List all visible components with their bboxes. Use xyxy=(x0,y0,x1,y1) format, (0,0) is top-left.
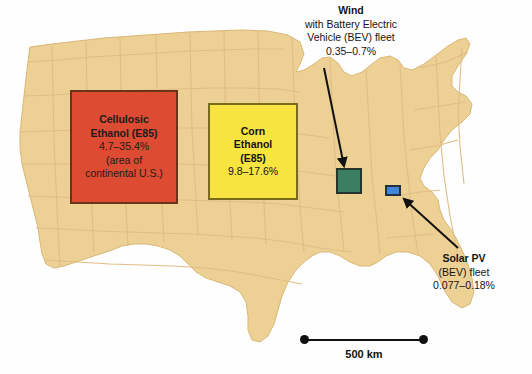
wind-callout: Wind with Battery Electric Vehicle (BEV)… xyxy=(258,4,444,59)
scale-bar-line xyxy=(300,335,428,345)
cellulosic-title-line-2: Ethanol (E85) xyxy=(90,127,157,140)
scale-bar-dot-right xyxy=(419,335,428,344)
cellulosic-value: 4.7–35.4% xyxy=(99,140,149,153)
wind-callout-value: 0.35–0.7% xyxy=(258,45,444,59)
wind-area-patch xyxy=(336,168,362,194)
solar-callout-title: Solar PV xyxy=(400,252,528,266)
corn-ethanol-area-box: Corn Ethanol (E85) 9.8–17.6% xyxy=(208,103,298,200)
corn-title-line-2: Ethanol xyxy=(234,138,273,151)
wind-callout-title: Wind xyxy=(258,4,444,18)
solar-callout-line-1: (BEV) fleet xyxy=(400,266,528,280)
solar-callout-value: 0.077–0.18% xyxy=(400,279,528,293)
us-land-area-map-figure: Cellulosic Ethanol (E85) 4.7–35.4% (area… xyxy=(0,0,532,374)
cellulosic-note-line-1: (area of xyxy=(106,154,142,167)
solar-callout: Solar PV (BEV) fleet 0.077–0.18% xyxy=(400,252,528,293)
cellulosic-title-line-1: Cellulosic xyxy=(99,113,149,126)
wind-callout-line-2: Vehicle (BEV) fleet xyxy=(258,31,444,45)
corn-title-line-1: Corn xyxy=(241,125,266,138)
scale-bar-label: 500 km xyxy=(300,348,428,360)
cellulosic-note-line-2: continental U.S.) xyxy=(85,167,163,180)
corn-value: 9.8–17.6% xyxy=(228,165,278,178)
map-scale-bar: 500 km xyxy=(300,335,428,360)
solar-area-patch xyxy=(385,185,401,196)
corn-title-line-3: (E85) xyxy=(240,152,266,165)
scale-bar-segment xyxy=(306,339,422,341)
cellulosic-ethanol-area-box: Cellulosic Ethanol (E85) 4.7–35.4% (area… xyxy=(70,90,178,204)
wind-callout-line-1: with Battery Electric xyxy=(258,18,444,32)
